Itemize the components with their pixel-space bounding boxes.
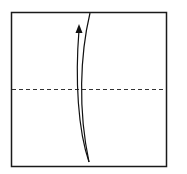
origami-diagram — [0, 0, 187, 174]
